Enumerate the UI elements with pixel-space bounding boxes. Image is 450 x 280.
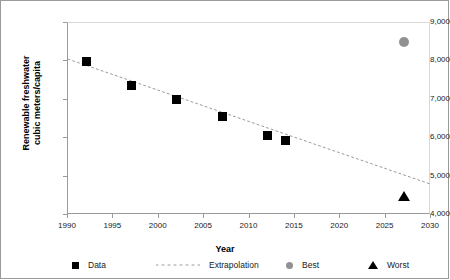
legend-item-worst[interactable]: Worst — [368, 258, 409, 272]
x-tick-label: 2000 — [138, 222, 178, 230]
x-axis-title: Year — [0, 244, 450, 254]
x-tick-label: 2010 — [229, 222, 269, 230]
data-point-data — [127, 81, 136, 90]
x-tick-mark — [385, 214, 386, 218]
data-point-data — [172, 95, 181, 104]
legend-label: Best — [302, 261, 319, 270]
x-tick-mark — [430, 214, 431, 218]
x-tick-mark — [249, 214, 250, 218]
x-tick-label: 2005 — [183, 222, 223, 230]
legend-label: Data — [88, 261, 106, 270]
x-tick-label: 2015 — [274, 222, 314, 230]
x-tick-mark — [158, 214, 159, 218]
plot-area — [67, 22, 430, 214]
x-tick-label: 1995 — [92, 222, 132, 230]
x-tick-label: 2020 — [319, 222, 359, 230]
x-tick-mark — [112, 214, 113, 218]
x-tick-mark — [294, 214, 295, 218]
legend-label: Worst — [387, 261, 409, 270]
x-tick-mark — [67, 214, 68, 218]
legend-dotted-line-icon — [156, 262, 200, 268]
legend-item-extrapolation[interactable]: Extrapolation — [156, 258, 259, 272]
legend-label: Extrapolation — [209, 261, 259, 270]
chart-legend: DataExtrapolationBestWorst — [0, 258, 450, 274]
legend-circle-icon — [286, 262, 293, 269]
data-point-data — [82, 57, 91, 66]
data-point-data — [218, 112, 227, 121]
x-tick-mark — [339, 214, 340, 218]
data-point-best — [399, 37, 409, 47]
legend-item-best[interactable]: Best — [286, 258, 319, 272]
x-tick-label: 2025 — [365, 222, 405, 230]
x-tick-label: 1990 — [47, 222, 87, 230]
legend-item-data[interactable]: Data — [72, 258, 106, 272]
data-point-worst — [398, 191, 410, 201]
chart-figure: Renewable freshwater cubic meters/capita… — [0, 0, 450, 280]
y-axis-title-line2: cubic meters/capita — [32, 13, 43, 193]
legend-triangle-icon — [368, 261, 378, 269]
y-axis-title-line1: Renewable freshwater — [21, 13, 32, 193]
x-tick-mark — [203, 214, 204, 218]
data-point-data — [281, 136, 290, 145]
extrapolation-line — [68, 23, 431, 215]
x-tick-label: 2030 — [410, 222, 450, 230]
y-axis-title: Renewable freshwater cubic meters/capita — [21, 13, 43, 193]
legend-square-icon — [72, 262, 79, 269]
data-point-data — [263, 131, 272, 140]
